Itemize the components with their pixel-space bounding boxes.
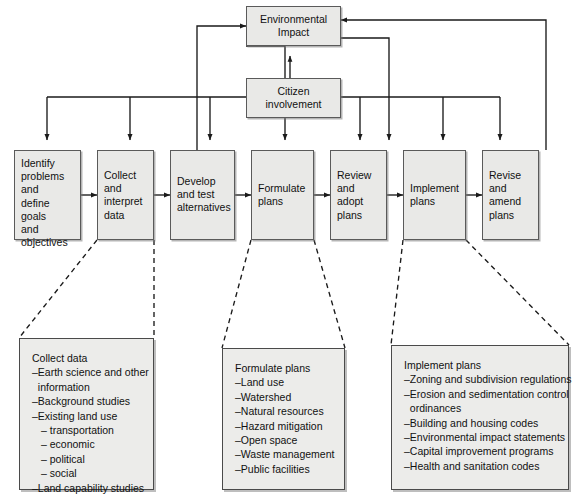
list-item: –Waste management <box>235 447 336 461</box>
box-implement-plans-label: Implement plans <box>410 182 461 208</box>
list-item: – economic <box>32 437 145 451</box>
list-item: –Health and sanitation codes <box>404 459 560 473</box>
list-item: –Environmental impact statements <box>404 430 560 444</box>
list-item: –Watershed <box>235 390 336 404</box>
detail-box-collect-data[interactable]: Collect data –Earth science and other in… <box>19 338 154 490</box>
box-environmental-impact-label: Environmental Impact <box>247 13 340 39</box>
box-identify-problems-label: Identify problems and define goals and o… <box>21 157 76 249</box>
box-review-adopt-plans[interactable]: Review and adopt plans <box>330 150 387 240</box>
list-item: –Land use <box>235 375 336 389</box>
box-develop-test-alternatives[interactable]: Develop and test alternatives <box>170 150 235 240</box>
detail-box-collect-data-list: –Earth science and other information –Ba… <box>32 365 145 495</box>
box-environmental-impact[interactable]: Environmental Impact <box>246 6 341 46</box>
box-revise-amend-plans[interactable]: Revise and amend plans <box>482 150 539 240</box>
detail-box-implement-plans[interactable]: Implement plans –Zoning and subdivision … <box>391 345 569 490</box>
box-revise-amend-plans-label: Revise and amend plans <box>489 169 534 222</box>
list-item: –Public facilities <box>235 462 336 476</box>
list-item: – transportation <box>32 423 145 437</box>
list-item: – political <box>32 452 145 466</box>
list-item: –Capital improvement programs <box>404 444 560 458</box>
detail-box-formulate-plans[interactable]: Formulate plans –Land use –Watershed –Na… <box>222 348 345 490</box>
list-item: –Natural resources <box>235 404 336 418</box>
list-item: –Land capability studies <box>32 481 145 495</box>
list-item: –Building and housing codes <box>404 416 560 430</box>
box-citizen-involvement-label: Citizen involvement <box>247 85 340 111</box>
list-item: – social <box>32 466 145 480</box>
list-item: –Zoning and subdivision regulations <box>404 372 560 386</box>
box-implement-plans[interactable]: Implement plans <box>403 150 466 240</box>
list-item: information <box>32 380 145 394</box>
list-item: –Hazard mitigation <box>235 419 336 433</box>
list-item: –Background studies <box>32 394 145 408</box>
box-formulate-plans[interactable]: Formulate plans <box>251 150 314 240</box>
box-citizen-involvement[interactable]: Citizen involvement <box>246 78 341 118</box>
list-item: –Earth science and other <box>32 365 145 379</box>
detail-box-implement-plans-title: Implement plans <box>404 358 560 372</box>
flowchart-diagram: Environmental Impact Citizen involvement… <box>0 0 581 501</box>
box-develop-test-alternatives-label: Develop and test alternatives <box>177 175 230 215</box>
detail-box-formulate-plans-list: –Land use –Watershed –Natural resources … <box>235 375 336 476</box>
detail-box-implement-plans-list: –Zoning and subdivision regulations –Ero… <box>404 372 560 473</box>
box-review-adopt-plans-label: Review and adopt plans <box>337 169 382 222</box>
detail-box-formulate-plans-title: Formulate plans <box>235 361 336 375</box>
list-item: –Existing land use <box>32 409 145 423</box>
list-item: –Erosion and sedimentation control <box>404 387 560 401</box>
box-collect-interpret-data-label: Collect and interpret data <box>104 169 149 222</box>
list-item: ordinances <box>404 401 560 415</box>
list-item: –Open space <box>235 433 336 447</box>
box-formulate-plans-label: Formulate plans <box>258 182 309 208</box>
box-collect-interpret-data[interactable]: Collect and interpret data <box>97 150 154 240</box>
detail-box-collect-data-title: Collect data <box>32 351 145 365</box>
box-identify-problems[interactable]: Identify problems and define goals and o… <box>14 150 81 240</box>
